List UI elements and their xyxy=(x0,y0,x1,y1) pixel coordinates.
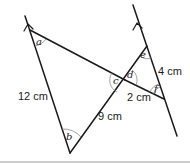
length-label-9cm: 9 cm xyxy=(98,110,122,122)
left-parallel-line xyxy=(25,16,70,153)
angle-label-c: c xyxy=(113,75,119,86)
angle-label-e: e xyxy=(140,49,146,60)
geometry-diagram: a b c d e f 12 cm 9 cm 4 cm 2 cm xyxy=(0,0,190,167)
length-label-12cm: 12 cm xyxy=(18,90,48,102)
length-label-4cm: 4 cm xyxy=(158,65,182,77)
angle-label-d: d xyxy=(127,69,133,80)
angle-label-b: b xyxy=(66,131,72,142)
angle-label-a: a xyxy=(36,36,42,47)
length-label-2cm: 2 cm xyxy=(127,91,151,103)
angle-label-f: f xyxy=(153,83,160,94)
